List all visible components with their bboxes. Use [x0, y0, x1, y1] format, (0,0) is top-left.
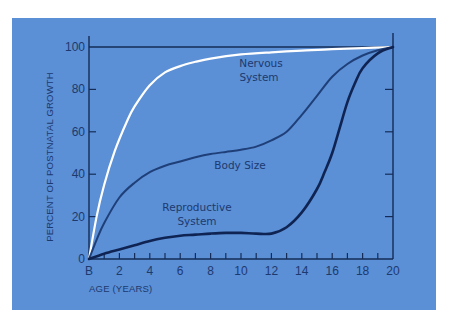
y-tick-label: 20 — [72, 210, 86, 224]
x-tick-label: 20 — [386, 264, 400, 278]
growth-chart: B2468101214161820020406080100 PERCENT OF… — [0, 0, 451, 326]
y-tick-label: 80 — [72, 82, 86, 96]
reproductive-system-label-line1: Reproductive — [162, 201, 231, 213]
y-tick-label: 60 — [72, 125, 86, 139]
y-tick-label: 0 — [78, 252, 85, 266]
x-tick-label: 6 — [177, 264, 184, 278]
y-axis-label: PERCENT OF POSTNATAL GROWTH — [44, 72, 55, 242]
x-tick-label: 18 — [356, 264, 370, 278]
y-tick-label: 40 — [72, 167, 86, 181]
y-tick-label: 100 — [65, 40, 85, 54]
reproductive-system-label-line2: System — [177, 215, 216, 227]
nervous-system-label-line2: System — [239, 71, 278, 83]
x-tick-label: 16 — [326, 264, 340, 278]
x-tick-label: 10 — [234, 264, 248, 278]
x-tick-label: 4 — [146, 264, 153, 278]
nervous-system-label-line1: Nervous — [239, 57, 282, 69]
x-tick-label: 14 — [295, 264, 309, 278]
x-axis-label: AGE (YEARS) — [89, 283, 152, 294]
body-size-label: Body Size — [214, 159, 265, 171]
x-tick-label: 2 — [116, 264, 123, 278]
x-tick-label: B — [85, 264, 93, 278]
x-tick-label: 12 — [265, 264, 279, 278]
x-tick-label: 8 — [207, 264, 214, 278]
